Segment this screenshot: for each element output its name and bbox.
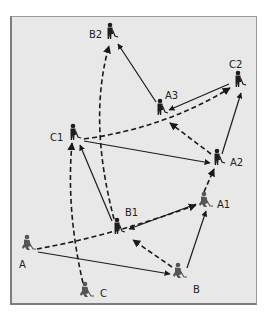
pass-arrow-a1-to-b1 xyxy=(129,204,196,229)
player-figure-icon xyxy=(173,263,187,278)
player-label: C xyxy=(100,288,107,299)
player-c: C xyxy=(80,282,107,299)
player-figure-icon xyxy=(71,124,82,140)
player-label: A xyxy=(19,259,26,270)
pass-arrow-a2-to-c2 xyxy=(222,93,241,154)
pass-arrow-b-to-a1 xyxy=(187,211,206,268)
paths-layer xyxy=(37,44,241,283)
run-arrow-c-to-c1 xyxy=(70,143,83,283)
player-a: A xyxy=(19,235,36,270)
player-b: B xyxy=(173,263,200,295)
run-arrow-b-to-b1 xyxy=(133,240,172,267)
player-a1: A1 xyxy=(199,192,230,210)
player-figure-icon xyxy=(22,235,36,250)
player-c1: C1 xyxy=(50,124,81,143)
player-figure-icon xyxy=(158,99,169,115)
player-figure-icon xyxy=(199,192,213,207)
player-a3: A3 xyxy=(158,90,179,115)
player-label: C1 xyxy=(50,132,63,143)
player-figure-icon xyxy=(108,23,119,39)
players-layer: ABCA1B1C1A2A3B2C2 xyxy=(19,23,246,299)
player-b1: B1 xyxy=(115,207,139,234)
player-label: B1 xyxy=(125,207,138,218)
player-label: A1 xyxy=(217,199,230,210)
pass-arrow-b1-to-c1 xyxy=(80,145,112,221)
player-label: B xyxy=(193,284,200,295)
player-c2: C2 xyxy=(229,59,246,87)
player-label: A3 xyxy=(165,90,178,101)
player-label: B2 xyxy=(89,29,102,40)
drill-diagram: ABCA1B1C1A2A3B2C2 xyxy=(0,0,270,316)
player-figure-icon xyxy=(236,71,247,87)
run-arrow-a1-to-a2 xyxy=(204,169,214,192)
pass-arrow-a-to-b xyxy=(38,252,170,274)
player-label: A2 xyxy=(230,157,243,168)
player-label: C2 xyxy=(229,59,242,70)
run-arrow-c1-to-c2 xyxy=(84,88,230,139)
run-arrow-a2-to-a3 xyxy=(170,123,211,154)
player-figure-icon xyxy=(80,282,94,297)
player-b2: B2 xyxy=(89,23,118,40)
pass-arrow-a3-to-b2 xyxy=(118,44,156,102)
player-figure-icon xyxy=(115,218,126,234)
run-arrow-b1-to-b2 xyxy=(100,46,114,219)
player-a2: A2 xyxy=(215,149,244,168)
